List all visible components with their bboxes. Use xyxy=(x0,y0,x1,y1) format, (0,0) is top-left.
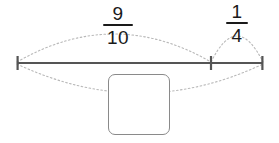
numerator: 9 xyxy=(112,4,123,24)
answer-box[interactable] xyxy=(108,74,170,135)
numerator: 1 xyxy=(231,2,242,22)
fraction-number-line-diagram: 9 10 1 4 xyxy=(0,0,279,143)
jump-label-9-10: 9 10 xyxy=(92,4,144,47)
jump-label-1-4: 1 4 xyxy=(218,2,256,45)
denominator: 4 xyxy=(231,24,242,45)
denominator: 10 xyxy=(107,26,129,47)
